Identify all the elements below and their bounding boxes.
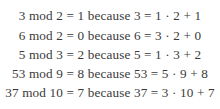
math-line-5: 37 mod 10 = 7 because 37 = 3 · 10 + 7 (0, 83, 220, 102)
math-line-3: 5 mod 3 = 2 because 5 = 1 · 3 + 2 (0, 45, 220, 64)
math-line-1: 3 mod 2 = 1 because 3 = 1 · 2 + 1 (0, 6, 220, 25)
math-line-2: 6 mod 2 = 0 because 6 = 3 · 2 + 0 (0, 26, 220, 45)
math-examples-block: 3 mod 2 = 1 because 3 = 1 · 2 + 1 6 mod … (0, 0, 220, 109)
math-line-4: 53 mod 9 = 8 because 53 = 5 · 9 + 8 (0, 64, 220, 83)
